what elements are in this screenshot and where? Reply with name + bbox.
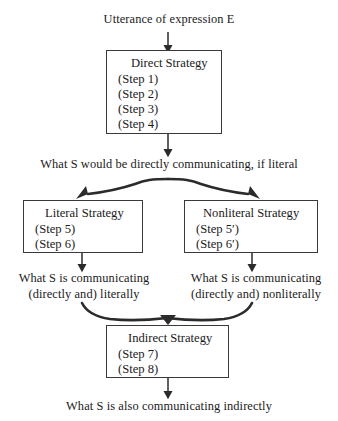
node-indirect-strategy[interactable]: Indirect Strategy (Step 7) (Step 8) [106, 325, 229, 378]
split-arrowhead-right [248, 186, 260, 199]
direct-strategy-step-2: (Step 2) [107, 87, 221, 102]
split-brace-right [168, 179, 248, 194]
indirect-strategy-step-7: (Step 7) [107, 347, 228, 362]
literal-strategy-title: Literal Strategy [24, 206, 142, 222]
label-nonliteral-output: What S is communicating (directly and) n… [174, 271, 338, 302]
split-brace-left [88, 179, 168, 194]
indirect-strategy-title: Indirect Strategy [107, 331, 228, 347]
direct-strategy-step-4: (Step 4) [107, 117, 221, 132]
label-indirect-output: What S is also communicating indirectly [0, 399, 338, 414]
label-direct-output: What S would be directly communicating, … [0, 157, 338, 172]
label-literal-output-line1: What S is communicating [4, 271, 164, 287]
split-arrowhead-left [76, 186, 88, 199]
label-nonliteral-output-line2: (directly and) nonliterally [174, 287, 338, 303]
nonliteral-strategy-title: Nonliteral Strategy [185, 206, 317, 222]
label-nonliteral-output-line1: What S is communicating [174, 271, 338, 287]
label-literal-output: What S is communicating (directly and) l… [4, 271, 164, 302]
literal-strategy-content: Literal Strategy (Step 5) (Step 6) [24, 201, 142, 257]
merge-brace-right [167, 303, 252, 320]
node-literal-strategy[interactable]: Literal Strategy (Step 5) (Step 6) [23, 200, 143, 253]
literal-strategy-step-6: (Step 6) [24, 237, 142, 252]
direct-strategy-step-1: (Step 1) [107, 72, 221, 87]
nonliteral-strategy-content: Nonliteral Strategy (Step 5′) (Step 6′) [185, 201, 317, 257]
node-nonliteral-strategy[interactable]: Nonliteral Strategy (Step 5′) (Step 6′) [184, 200, 318, 253]
node-direct-strategy[interactable]: Direct Strategy (Step 1) (Step 2) (Step … [106, 50, 222, 134]
direct-strategy-title: Direct Strategy [107, 56, 221, 72]
direct-strategy-step-3: (Step 3) [107, 102, 221, 117]
label-literal-output-line2: (directly and) literally [4, 287, 164, 303]
nonliteral-strategy-step-5-prime: (Step 5′) [185, 222, 317, 237]
flowchart-diagram: Utterance of expression E Direct Strateg… [0, 0, 338, 421]
indirect-strategy-content: Indirect Strategy (Step 7) (Step 8) [107, 326, 228, 382]
nonliteral-strategy-step-6-prime: (Step 6′) [185, 237, 317, 252]
label-utterance: Utterance of expression E [0, 12, 338, 27]
literal-strategy-step-5: (Step 5) [24, 222, 142, 237]
indirect-strategy-step-8: (Step 8) [107, 362, 228, 377]
direct-strategy-content: Direct Strategy (Step 1) (Step 2) (Step … [107, 51, 221, 138]
merge-arrowhead-down [160, 315, 176, 325]
merge-brace-left [82, 303, 167, 320]
